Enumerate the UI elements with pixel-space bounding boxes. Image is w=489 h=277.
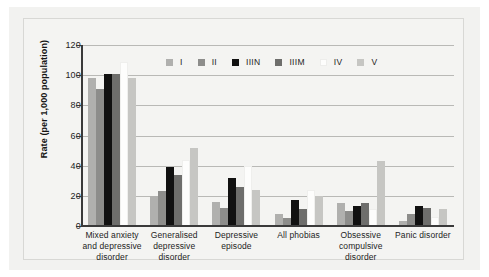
legend-label: II <box>212 57 217 67</box>
legend-label: I <box>180 57 183 67</box>
category-label: Panic disorder <box>386 230 460 241</box>
y-axis-tick-labels: 020406080100120 <box>48 45 81 226</box>
legend-swatch-icon <box>166 59 173 66</box>
bar <box>307 190 315 226</box>
bar <box>423 208 431 226</box>
bar <box>104 74 112 226</box>
chart-frame: Rate (per 1,000 population) 020406080100… <box>23 18 464 260</box>
bar-group <box>392 45 454 226</box>
bar <box>291 200 299 226</box>
bar-group <box>143 45 205 226</box>
legend-label: IV <box>334 57 343 67</box>
x-axis-line <box>81 225 454 227</box>
bar <box>236 187 244 226</box>
chart-screenshot: Rate (per 1,000 population) 020406080100… <box>0 0 489 277</box>
legend-swatch-icon <box>320 59 327 66</box>
scanned-page-plate: Rate (per 1,000 population) 020406080100… <box>9 7 480 270</box>
bar <box>220 208 228 226</box>
legend-swatch-icon <box>357 59 364 66</box>
legend-item: V <box>357 57 377 67</box>
bar <box>166 167 174 226</box>
bar <box>88 78 96 226</box>
y-axis-line <box>81 45 83 226</box>
bar <box>244 166 252 226</box>
legend-item: II <box>198 57 217 67</box>
bar <box>190 148 198 226</box>
bar-group <box>330 45 392 226</box>
bar <box>128 78 136 226</box>
bar <box>369 209 377 226</box>
legend-swatch-icon <box>275 59 282 66</box>
bar <box>345 211 353 226</box>
bar <box>337 203 345 226</box>
bar <box>182 160 190 226</box>
bar <box>439 209 447 226</box>
bar-group <box>268 45 330 226</box>
bar <box>315 196 323 226</box>
chart-legend: IIIIIINIIIMIVV <box>166 57 377 67</box>
legend-label: IIIN <box>246 57 260 67</box>
bar <box>112 74 120 226</box>
bar <box>299 209 307 226</box>
bar-group <box>205 45 267 226</box>
bar <box>120 62 128 226</box>
bar <box>150 196 158 226</box>
bar <box>96 89 104 226</box>
legend-label: V <box>371 57 377 67</box>
plot-area <box>81 45 454 226</box>
legend-item: I <box>166 57 183 67</box>
legend-item: IV <box>320 57 343 67</box>
bar <box>158 191 166 226</box>
bar <box>377 161 385 226</box>
bar <box>212 202 220 226</box>
bar <box>228 178 236 226</box>
bar <box>252 190 260 226</box>
legend-label: IIIM <box>289 57 304 67</box>
legend-swatch-icon <box>232 59 239 66</box>
bar-group <box>81 45 143 226</box>
x-axis-category-labels: Mixed anxietyand depressivedisorderGener… <box>81 230 454 276</box>
bar <box>361 203 369 226</box>
legend-item: IIIM <box>275 57 304 67</box>
bar <box>174 175 182 226</box>
legend-item: IIIN <box>232 57 260 67</box>
bar <box>415 206 423 226</box>
bar <box>353 206 361 226</box>
legend-swatch-icon <box>198 59 205 66</box>
